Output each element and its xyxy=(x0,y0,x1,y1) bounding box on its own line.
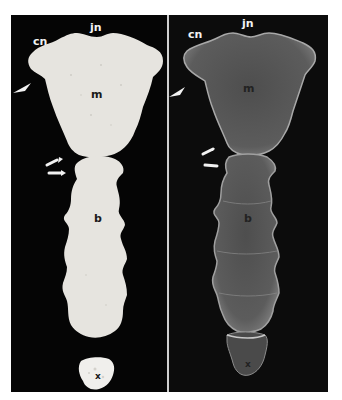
arrowhead-marker xyxy=(13,83,31,93)
arrowhead-marker xyxy=(169,87,185,97)
radiograph-panel: cn jn m b x xyxy=(169,15,328,392)
label-b: b xyxy=(244,213,252,224)
sternal-body-shape xyxy=(62,156,127,338)
label-m: m xyxy=(91,89,102,100)
label-x: x xyxy=(245,359,251,370)
photograph-panel: cn jn m b x xyxy=(11,15,167,392)
label-b: b xyxy=(94,213,102,224)
arrow-markers xyxy=(203,149,217,166)
label-jn: jn xyxy=(90,22,102,33)
sternum-photo xyxy=(11,15,167,392)
label-m: m xyxy=(243,83,254,94)
label-x: x xyxy=(95,371,101,382)
sternal-body-shape xyxy=(212,154,279,332)
label-cn: cn xyxy=(188,29,202,40)
sternum-figure: cn jn m b x xyxy=(11,15,328,392)
label-jn: jn xyxy=(242,18,254,29)
sternum-xray xyxy=(169,15,328,392)
label-cn: cn xyxy=(33,36,47,47)
